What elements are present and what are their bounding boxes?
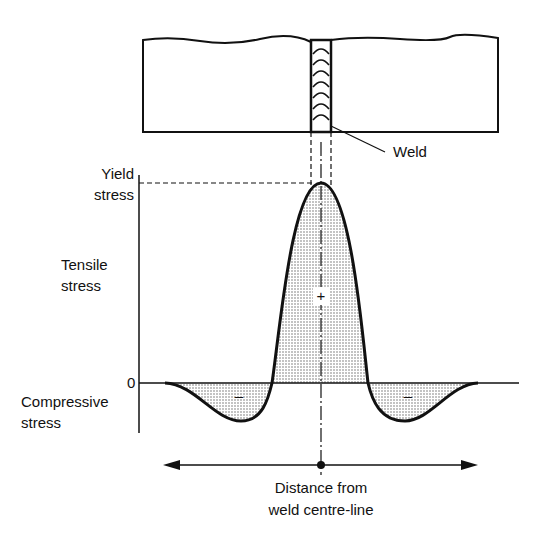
arrow-left-icon bbox=[163, 460, 180, 470]
compressive-sign-left: – bbox=[232, 387, 246, 405]
compressive-label-2: stress bbox=[21, 414, 61, 432]
yield-label-2: stress bbox=[60, 186, 134, 204]
tensile-label-1: Tensile bbox=[61, 256, 108, 274]
origin-dot-icon bbox=[317, 461, 325, 469]
distance-arrow bbox=[163, 460, 478, 470]
tensile-label-2: stress bbox=[61, 277, 101, 295]
x-axis-label-2: weld centre-line bbox=[221, 501, 421, 519]
weld-label: Weld bbox=[393, 143, 427, 161]
zero-label: 0 bbox=[127, 374, 135, 392]
welded-plate bbox=[143, 35, 498, 152]
compressive-label-1: Compressive bbox=[21, 393, 109, 411]
arrow-right-icon bbox=[461, 460, 478, 470]
tensile-sign: + bbox=[313, 287, 329, 305]
yield-label-1: Yield bbox=[60, 165, 134, 183]
weld-residual-stress-diagram: Weld Yield stress Tensile stress 0 Compr… bbox=[0, 0, 549, 547]
x-axis-label-1: Distance from bbox=[221, 479, 421, 497]
compressive-sign-right: – bbox=[401, 387, 415, 405]
